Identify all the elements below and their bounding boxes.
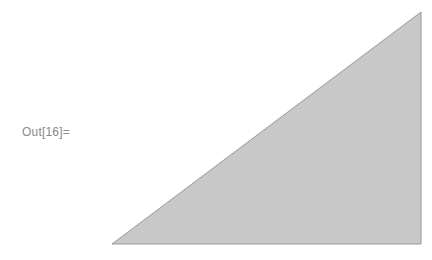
triangle-graphic[interactable] (0, 0, 432, 260)
triangle-shape (112, 12, 421, 244)
